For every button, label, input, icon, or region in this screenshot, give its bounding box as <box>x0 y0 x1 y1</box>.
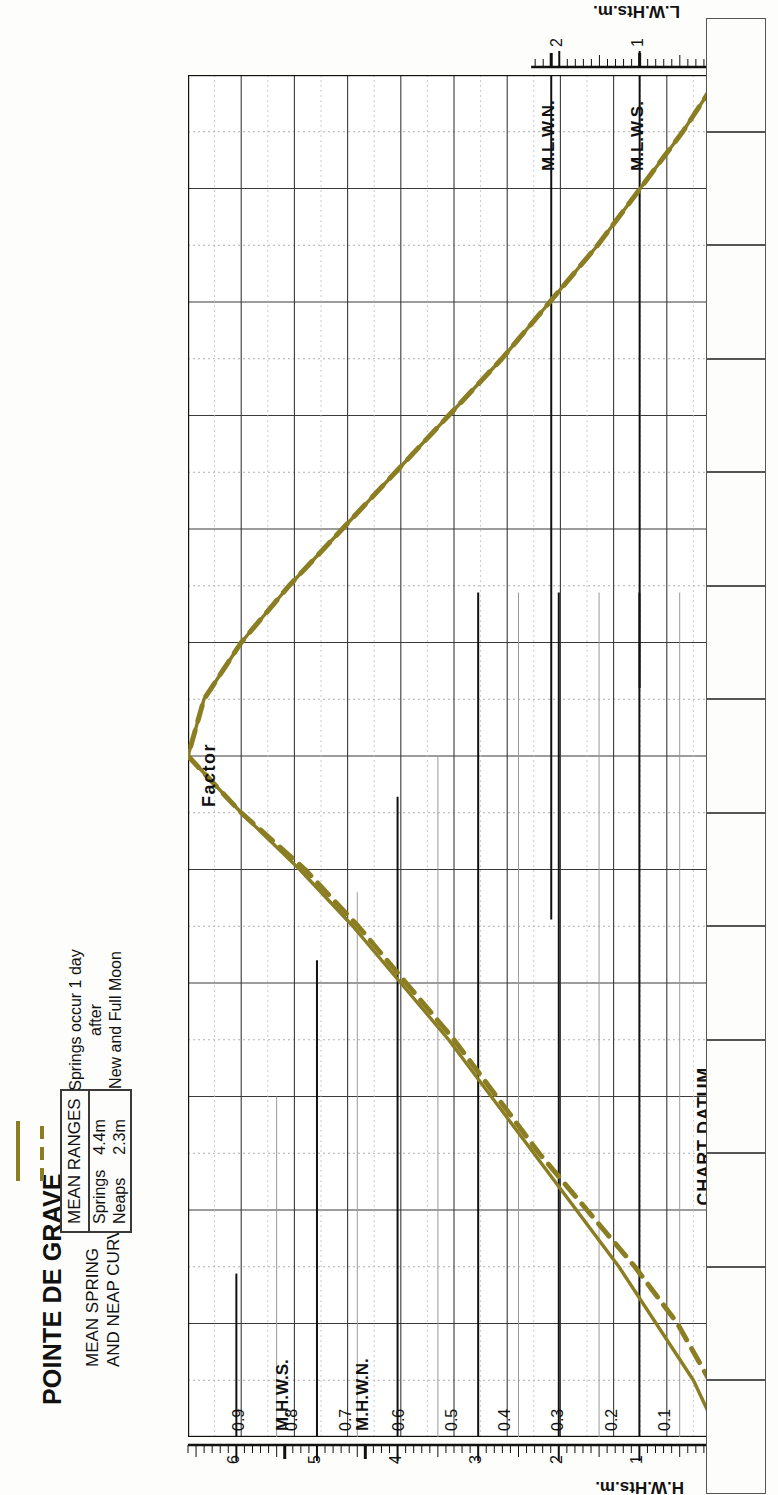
time-entry-box[interactable] <box>706 1153 766 1267</box>
lw-axis-title: L.W.Hts.m. <box>593 1 680 21</box>
time-entry-box[interactable] <box>706 472 766 586</box>
time-entry-box[interactable] <box>706 586 766 700</box>
time-entry-boxes <box>706 75 768 1437</box>
time-entry-box[interactable] <box>706 1040 766 1154</box>
lw-tick-label-1: 1 <box>629 21 647 47</box>
plot-overlay: L.W.-5h-4h-3h-2h-1hH.W.+1h+2h+3h+4h+5hL.… <box>0 0 778 1495</box>
time-entry-box[interactable] <box>706 699 766 813</box>
lw-height-ruler <box>0 0 778 1495</box>
time-entry-box[interactable] <box>706 18 766 132</box>
time-entry-box[interactable] <box>706 132 766 246</box>
time-entry-box[interactable] <box>706 926 766 1040</box>
time-entry-box[interactable] <box>706 1380 766 1494</box>
level-label-M.L.W.N.: M.L.W.N. <box>539 100 559 171</box>
tidal-curve-sheet: POINTE DE GRAVE MEAN SPRING AND NEAP CUR… <box>0 0 778 1495</box>
time-entry-box[interactable] <box>706 1267 766 1381</box>
time-entry-box[interactable] <box>706 813 766 927</box>
time-entry-box[interactable] <box>706 359 766 473</box>
time-entry-box[interactable] <box>706 245 766 359</box>
lw-tick-label-2: 2 <box>548 21 566 47</box>
level-label-M.L.W.S.: M.L.W.S. <box>628 101 648 171</box>
